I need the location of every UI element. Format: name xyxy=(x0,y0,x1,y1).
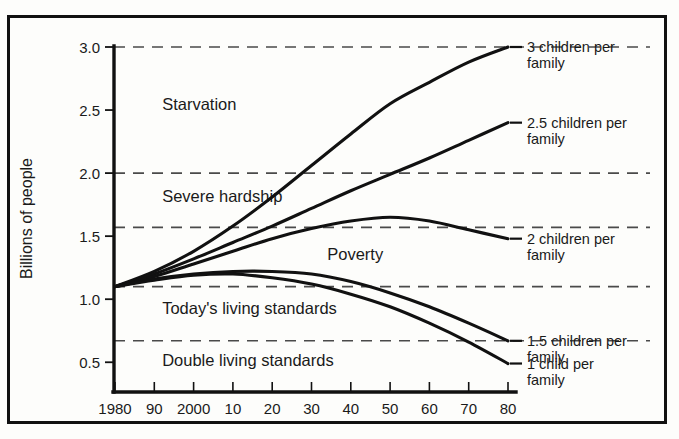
series-label-2-5-children-per-family: 2.5 children per xyxy=(527,115,627,131)
series-label-2-children-per-family-cont: family xyxy=(527,247,566,263)
series-label-1-child-per-family-cont: family xyxy=(527,372,566,388)
x-tick-label-10: 10 xyxy=(225,400,242,417)
x-tick-label-80: 80 xyxy=(500,400,517,417)
chart-page: 3.02.52.01.51.00.51980902000102030405060… xyxy=(0,0,679,439)
series-label-2-children-per-family: 2 children per xyxy=(527,231,615,247)
x-tick-label-30: 30 xyxy=(303,400,320,417)
y-axis-title: Billions of people xyxy=(18,158,35,279)
series-label-1-5-children-per-family: 1.5 children per xyxy=(527,333,627,349)
series-label-3-children-per-family: 3 children per xyxy=(527,39,615,55)
band-label-starvation: Starvation xyxy=(162,95,236,113)
x-tick-label-2000: 2000 xyxy=(177,400,210,417)
series-label-3-children-per-family-cont: family xyxy=(527,55,566,71)
series-label-2-5-children-per-family-cont: family xyxy=(527,131,566,147)
y-tick-label-1.0: 1.0 xyxy=(79,291,100,308)
x-tick-label-20: 20 xyxy=(264,400,281,417)
band-label-today-s-living-standards: Today's living standards xyxy=(162,299,337,317)
chart-frame: 3.02.52.01.51.00.51980902000102030405060… xyxy=(7,15,667,424)
band-label-poverty: Poverty xyxy=(327,245,384,263)
x-tick-label-60: 60 xyxy=(421,400,438,417)
y-tick-label-2.0: 2.0 xyxy=(79,165,100,182)
x-tick-label-1980: 1980 xyxy=(98,400,131,417)
y-tick-label-2.5: 2.5 xyxy=(79,102,100,119)
y-tick-label-3.0: 3.0 xyxy=(79,39,100,56)
band-label-double-living-standards: Double living standards xyxy=(162,351,334,369)
population-projection-chart: 3.02.52.01.51.00.51980902000102030405060… xyxy=(10,18,664,421)
y-tick-label-1.5: 1.5 xyxy=(79,228,100,245)
x-tick-label-70: 70 xyxy=(460,400,477,417)
x-tick-label-50: 50 xyxy=(382,400,399,417)
x-tick-label-90: 90 xyxy=(146,400,163,417)
series-curve-3-children-per-family xyxy=(115,47,508,287)
x-tick-label-40: 40 xyxy=(342,400,359,417)
y-tick-label-0.5: 0.5 xyxy=(79,354,100,371)
series-label-1-child-per-family: 1 child per xyxy=(527,356,594,372)
